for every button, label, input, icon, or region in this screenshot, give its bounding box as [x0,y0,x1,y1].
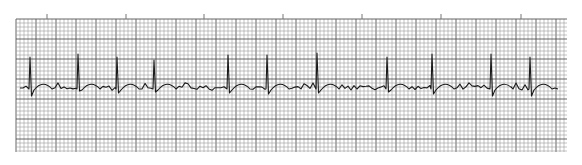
ecg-strip [0,0,582,165]
time-marks [47,14,521,19]
